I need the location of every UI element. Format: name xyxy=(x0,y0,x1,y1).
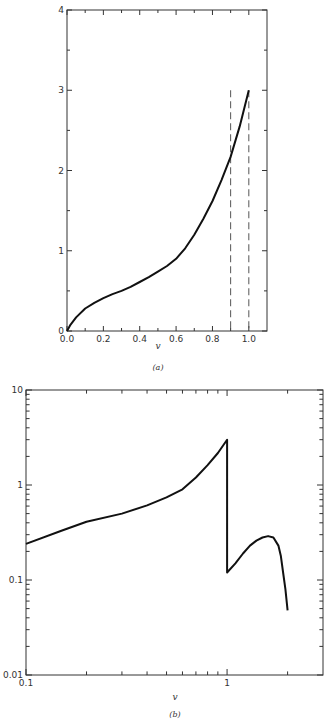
figure-caption: (b) xyxy=(169,710,180,719)
figure: 0.00.20.40.60.81.001234v(a) 0.110.010.11… xyxy=(0,0,329,722)
x-axis-label: v xyxy=(172,692,177,702)
y-tick-label: 2 xyxy=(58,166,64,176)
y-tick-label: 3 xyxy=(58,85,64,95)
x-tick-label: 0.8 xyxy=(205,334,220,344)
x-tick-label: 0.4 xyxy=(133,334,148,344)
chart-b: 0.110.010.1110v(b) xyxy=(3,385,323,719)
plot-frame xyxy=(67,10,267,331)
x-tick-label: 1 xyxy=(224,678,230,688)
plot-frame xyxy=(26,390,323,675)
data-curve xyxy=(67,90,249,331)
y-tick-label: 1 xyxy=(58,246,64,256)
y-tick-label: 0.01 xyxy=(3,670,23,680)
y-tick-label: 0.1 xyxy=(9,575,23,585)
x-tick-label: 0.6 xyxy=(169,334,184,344)
figure-caption: (a) xyxy=(152,363,163,372)
data-curve xyxy=(26,440,288,611)
y-tick-label: 10 xyxy=(12,385,24,395)
x-tick-label: 0.2 xyxy=(96,334,110,344)
y-tick-label: 1 xyxy=(17,480,23,490)
x-axis-label: v xyxy=(155,341,160,351)
y-tick-label: 0 xyxy=(58,326,64,336)
y-tick-label: 4 xyxy=(58,5,64,15)
chart-a: 0.00.20.40.60.81.001234v(a) xyxy=(58,5,267,372)
x-tick-label: 1.0 xyxy=(242,334,257,344)
